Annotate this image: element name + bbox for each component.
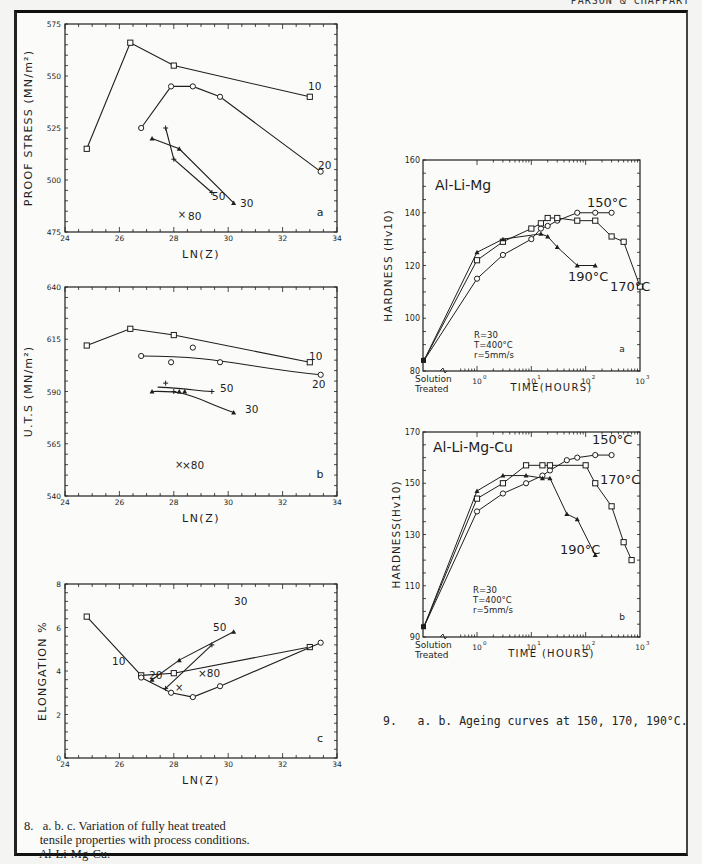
x-tick-label: 30 — [223, 234, 233, 243]
panel-label: b — [317, 468, 324, 481]
plot-frame — [423, 432, 640, 637]
square-marker-icon — [474, 258, 479, 263]
x-axis-label: TIME(HOURS) — [509, 382, 592, 393]
series-label: 150°C — [592, 432, 632, 447]
plus-marker-icon — [171, 389, 176, 394]
series-label: 170°C — [600, 472, 640, 487]
circle-marker-icon — [500, 252, 505, 257]
series-line-10 — [87, 329, 310, 362]
fig8a-chart: 242628303234475500525550575LN(Z)PROOF ST… — [22, 20, 342, 261]
y-tick-label: 8 — [56, 580, 61, 589]
circle-marker-icon — [318, 640, 323, 645]
x-tick-label: 26 — [115, 760, 125, 769]
triangle-marker-icon — [177, 389, 182, 394]
y-axis-label: ELONGATION % — [36, 621, 49, 721]
square-marker-icon — [84, 614, 89, 619]
panel-label: c — [317, 732, 323, 745]
series-label: ×80 — [198, 667, 220, 679]
circle-marker-icon — [217, 684, 222, 689]
square-marker-icon — [621, 540, 626, 545]
solution-treated-point — [421, 624, 426, 629]
x-tick-label: 10 — [635, 377, 645, 386]
circle-marker-icon — [168, 690, 173, 695]
y-tick-label: 575 — [47, 20, 62, 29]
square-marker-icon — [545, 215, 550, 220]
y-tick-label: 615 — [47, 335, 62, 344]
y-tick-label: 550 — [47, 72, 62, 81]
x-tick-label: 10 — [472, 643, 482, 652]
y-tick-label: 140 — [405, 209, 420, 218]
circle-marker-icon — [547, 468, 552, 473]
circle-marker-icon — [593, 452, 598, 457]
panel-label: a — [317, 206, 324, 219]
series-label: ×80 — [182, 459, 204, 471]
triangle-marker-icon — [475, 250, 480, 255]
y-tick-label: 475 — [47, 228, 62, 237]
square-marker-icon — [171, 332, 176, 337]
series-label: 50 — [220, 382, 233, 394]
figure-canvas: 242628303234475500525550575LN(Z)PROOF ST… — [0, 0, 702, 864]
square-marker-icon — [171, 63, 176, 68]
fig9a-chart: 80100120140160100101102103SolutionTreate… — [382, 156, 650, 394]
x-first-label: Solution — [415, 640, 452, 650]
triangle-marker-icon — [150, 136, 155, 141]
series-line-150°C — [424, 455, 612, 627]
conditions-annotation: r=5mm/s — [474, 350, 514, 360]
circle-marker-icon — [609, 452, 614, 457]
square-marker-icon — [84, 343, 89, 348]
series-label: 80 — [188, 210, 201, 222]
square-marker-icon — [555, 215, 560, 220]
x-tick-label: 34 — [332, 498, 342, 507]
square-marker-icon — [621, 239, 626, 244]
circle-marker-icon — [474, 276, 479, 281]
x-tick-label: 24 — [60, 234, 70, 243]
x-tick-exponent: 3 — [646, 640, 650, 646]
y-tick-label: 110 — [405, 582, 420, 591]
plot-frame — [65, 24, 337, 232]
y-axis-label: U.T.S (MN/m²) — [22, 346, 35, 438]
x-tick-label: 10 — [635, 643, 645, 652]
circle-marker-icon — [190, 84, 195, 89]
y-tick-label: 6 — [56, 624, 61, 633]
fig9b-chart: 90110130150170100101102103SolutionTreate… — [390, 428, 650, 660]
series-label: 190°C — [560, 542, 600, 557]
triangle-marker-icon — [231, 629, 236, 634]
y-tick-label: 150 — [405, 479, 420, 488]
x-axis-label: TIME (HOURS) — [507, 648, 595, 659]
square-marker-icon — [128, 40, 133, 45]
x-tick-exponent: 2 — [592, 374, 596, 380]
y-axis-label: PROOF STRESS (MN/m²) — [22, 50, 35, 206]
y-tick-label: 540 — [47, 492, 62, 501]
x-tick-exponent: 0 — [483, 374, 487, 380]
chart-title: Al-Li-Mg — [435, 177, 491, 193]
circle-marker-icon — [545, 223, 550, 228]
x-axis-label: LN(Z) — [182, 774, 220, 787]
series-label: 20 — [149, 669, 162, 681]
circle-marker-icon — [538, 226, 543, 231]
x-first-label: Treated — [414, 384, 449, 394]
series-label: 10 — [308, 80, 321, 92]
circle-marker-icon — [575, 455, 580, 460]
y-tick-label: 120 — [405, 262, 420, 271]
fig8-caption-line2: tensile properties with process conditio… — [24, 833, 250, 848]
plus-marker-icon — [209, 389, 214, 394]
x-tick-exponent: 1 — [537, 640, 541, 646]
y-tick-label: 4 — [56, 667, 61, 676]
triangle-marker-icon — [564, 512, 569, 517]
square-marker-icon — [307, 94, 312, 99]
circle-marker-icon — [474, 509, 479, 514]
y-axis-label: HARDNESS (Hv10) — [382, 209, 394, 321]
series-line-20 — [141, 643, 321, 697]
x-tick-exponent: 0 — [483, 640, 487, 646]
cross-marker-icon: × — [178, 209, 186, 220]
square-marker-icon — [593, 481, 598, 486]
y-tick-label: 2 — [56, 711, 61, 720]
square-marker-icon — [538, 221, 543, 226]
fig8b-chart: 242628303234540565590615640LN(Z)U.T.S (M… — [22, 283, 342, 525]
x-tick-exponent: 2 — [592, 640, 596, 646]
series-label: 30 — [234, 595, 247, 607]
x-tick-label: 28 — [169, 498, 179, 507]
series-line-30 — [152, 632, 234, 680]
square-marker-icon — [547, 463, 552, 468]
y-axis-label: HARDNESS(Hv10) — [390, 481, 402, 589]
